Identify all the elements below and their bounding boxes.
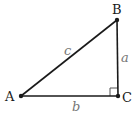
right-triangle-diagram: A B C a b c (0, 0, 137, 114)
side-b-label: b (72, 99, 80, 114)
vertex-b-label: B (112, 2, 122, 17)
side-c-hypotenuse (21, 20, 117, 96)
vertex-c-label: C (122, 90, 132, 105)
vertex-b-dot (115, 18, 119, 22)
side-a-label: a (121, 50, 129, 65)
vertex-a-label: A (4, 89, 15, 104)
side-c-label: c (64, 43, 72, 58)
side-a (117, 20, 118, 96)
vertex-c-dot (116, 94, 120, 98)
vertex-a-dot (19, 94, 23, 98)
